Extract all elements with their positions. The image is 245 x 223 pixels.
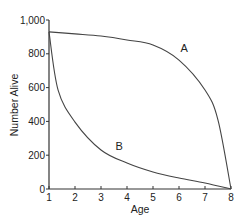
x-tick-label: 6 xyxy=(176,192,182,203)
y-tick-label: 0 xyxy=(39,184,45,195)
y-tick-label: 1,000 xyxy=(20,15,45,26)
curve-a xyxy=(49,32,231,189)
y-axis-label: Number Alive xyxy=(8,74,20,137)
y-tick-label: 200 xyxy=(28,150,45,161)
x-axis-label: Age xyxy=(131,203,150,215)
x-tick-label: 8 xyxy=(228,192,234,203)
chart-canvas: 02004006008001,00012345678AgeNumber Aliv… xyxy=(0,0,245,223)
curve-label-a: A xyxy=(181,42,189,54)
x-tick-label: 4 xyxy=(124,192,130,203)
y-tick-label: 400 xyxy=(28,116,45,127)
survivorship-chart: 02004006008001,00012345678AgeNumber Aliv… xyxy=(0,0,245,223)
x-tick-label: 3 xyxy=(98,192,104,203)
curve-label-b: B xyxy=(116,140,123,152)
curve-b xyxy=(49,32,231,189)
y-tick-label: 600 xyxy=(28,82,45,93)
x-tick-label: 7 xyxy=(202,192,208,203)
x-tick-label: 5 xyxy=(150,192,156,203)
x-tick-label: 2 xyxy=(72,192,78,203)
y-tick-label: 800 xyxy=(28,48,45,59)
x-tick-label: 1 xyxy=(46,192,52,203)
